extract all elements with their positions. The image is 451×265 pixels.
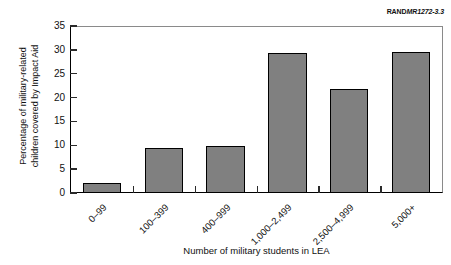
x-tick-mark <box>318 186 319 193</box>
chart-figure: RANDMR1272-3.3 Percentage of military-re… <box>0 0 451 265</box>
x-tick-mark <box>380 186 381 193</box>
x-tick-mark <box>195 186 196 193</box>
x-axis: 0–99100–399400–9991,000–2,4992,500–4,999… <box>0 0 451 265</box>
x-tick-mark <box>133 186 134 193</box>
x-tick-mark <box>257 186 258 193</box>
x-axis-title: Number of military students in LEA <box>70 245 443 256</box>
